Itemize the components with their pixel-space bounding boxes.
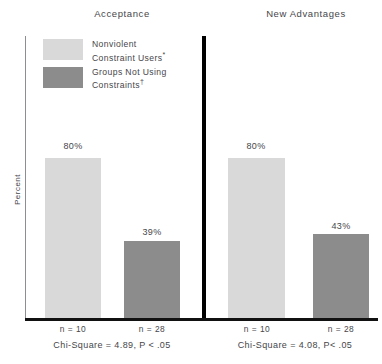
legend-label-nonviolent: Nonviolent Constraint Users* bbox=[92, 39, 166, 63]
n-label-newadv-dark: n = 28 bbox=[306, 324, 376, 334]
panel-title-acceptance: Acceptance bbox=[52, 8, 192, 19]
legend-item-groups-not-using: Groups Not Using Constraints† bbox=[43, 67, 167, 91]
bar-new-advantages-nonviolent bbox=[228, 158, 285, 318]
legend-marker-asterisk: * bbox=[162, 51, 165, 58]
legend: Nonviolent Constraint Users* Groups Not … bbox=[43, 39, 167, 95]
bar-acceptance-groups-not-using bbox=[124, 241, 180, 318]
bar-chart: Acceptance New Advantages Percent Nonvio… bbox=[0, 0, 382, 364]
legend-label-nonviolent-text: Nonviolent Constraint Users bbox=[92, 39, 162, 62]
legend-swatch-light bbox=[43, 39, 83, 60]
x-axis-baseline bbox=[25, 318, 378, 321]
n-label-newadv-light: n = 10 bbox=[222, 324, 292, 334]
legend-item-nonviolent: Nonviolent Constraint Users* bbox=[43, 39, 167, 63]
panel-divider-line bbox=[202, 36, 206, 320]
legend-marker-dagger: † bbox=[140, 78, 144, 85]
y-axis-label: Percent bbox=[13, 160, 22, 220]
bar-value-newadv-light: 80% bbox=[223, 141, 289, 151]
bar-value-newadv-dark: 43% bbox=[308, 221, 374, 231]
bar-acceptance-nonviolent bbox=[45, 158, 101, 318]
bar-value-acceptance-light: 80% bbox=[40, 141, 106, 151]
stat-annotation-acceptance: Chi-Square = 4.89, P < .05 bbox=[22, 340, 202, 350]
legend-swatch-dark bbox=[43, 67, 83, 88]
bar-value-acceptance-dark: 39% bbox=[119, 227, 185, 237]
legend-label-groups-not-using: Groups Not Using Constraints† bbox=[92, 67, 167, 91]
panel-title-new-advantages: New Advantages bbox=[236, 8, 376, 19]
legend-label-groups-text: Groups Not Using Constraints bbox=[92, 67, 167, 90]
n-label-acceptance-light: n = 10 bbox=[38, 324, 108, 334]
n-label-acceptance-dark: n = 28 bbox=[117, 324, 187, 334]
stat-annotation-new-advantages: Chi-Square = 4.08, P< .05 bbox=[205, 340, 382, 350]
y-axis-line bbox=[25, 36, 26, 320]
bar-new-advantages-groups-not-using bbox=[313, 234, 369, 318]
